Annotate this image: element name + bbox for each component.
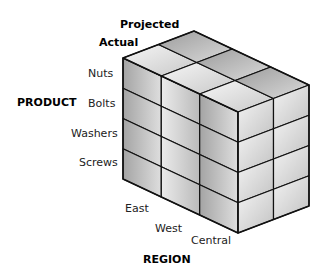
region-label-central: Central (191, 235, 231, 246)
product-axis-title: PRODUCT (17, 97, 77, 108)
region-label-west: West (155, 223, 182, 234)
product-label-bolts: Bolts (88, 98, 115, 109)
product-label-screws: Screws (79, 157, 118, 168)
cube-cells (123, 31, 309, 233)
scenario-label-actual: Actual (99, 37, 138, 48)
scenario-label-projected: Projected (120, 19, 179, 30)
product-label-nuts: Nuts (88, 68, 113, 79)
region-label-east: East (125, 203, 149, 214)
product-label-washers: Washers (71, 128, 118, 139)
region-axis-title: REGION (143, 254, 191, 265)
